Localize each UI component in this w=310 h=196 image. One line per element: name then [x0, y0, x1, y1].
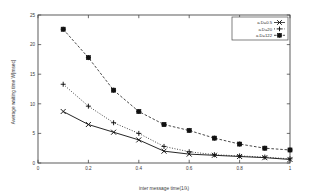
- chart-figure: 00.20.40.60.81 0510152025 inter message …: [0, 0, 310, 196]
- x-tick-label: 0.2: [85, 166, 92, 171]
- line-chart: 00.20.40.60.81 0510152025 inter message …: [0, 0, 310, 196]
- y-tick-label: 20: [30, 42, 36, 47]
- legend-label-0: a.D=0.5: [257, 20, 272, 25]
- y-tick-label: 15: [30, 72, 36, 77]
- chart-legend: a.D=0.5a.D=20a.D=122: [232, 17, 288, 40]
- y-tick-label: 25: [30, 13, 36, 18]
- y-axis-title: Average waiting time W[msec]: [11, 60, 16, 124]
- x-tick-label: 0.4: [136, 166, 143, 171]
- x-tick-label: 0: [37, 166, 40, 171]
- x-tick-label: 0.8: [236, 166, 243, 171]
- y-tick-label: 0: [32, 161, 35, 166]
- y-tick-label: 5: [32, 131, 35, 136]
- y-tick-label: 10: [30, 102, 36, 107]
- x-tick-label: 0.6: [186, 166, 193, 171]
- x-tick-label: 1: [289, 166, 292, 171]
- x-axis-title: inter message time(1/λ): [139, 186, 190, 191]
- legend-label-2: a.D=122: [256, 33, 273, 38]
- legend-label-1: a.D=20: [258, 27, 272, 32]
